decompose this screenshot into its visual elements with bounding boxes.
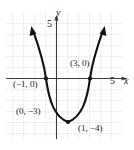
x-axis-tick-label-5: 5 xyxy=(110,76,115,86)
point-label-vertex: (1, −4) xyxy=(78,124,103,133)
point-label-y-intercept: (0, −3) xyxy=(16,107,41,116)
point-label-x-intercept-left: (−1, 0) xyxy=(13,80,38,89)
point-vertex xyxy=(66,120,70,124)
point-x-intercept-right xyxy=(88,76,92,80)
y-axis-label: y xyxy=(56,8,60,18)
parabola-figure: y x 5 5 (−1, 0) (3, 0) (0, −3) (1, −4) xyxy=(0,0,134,150)
x-axis-label: x xyxy=(124,76,128,86)
point-label-x-intercept-right: (3, 0) xyxy=(70,59,90,68)
point-x-intercept-left xyxy=(44,76,48,80)
y-axis-tick-label-5: 5 xyxy=(47,19,52,29)
